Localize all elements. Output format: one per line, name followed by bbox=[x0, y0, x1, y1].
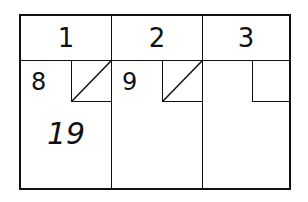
frame-2: 2 9 bbox=[111, 16, 202, 188]
frame-number: 1 bbox=[21, 16, 111, 61]
bowling-scorecard: 1 8 19 2 9 3 bbox=[19, 14, 291, 190]
second-roll-box bbox=[71, 61, 111, 102]
first-roll: 9 bbox=[122, 70, 137, 94]
frame-3: 3 bbox=[202, 16, 289, 188]
first-roll: 8 bbox=[31, 70, 46, 94]
spare-slash-icon bbox=[163, 61, 202, 101]
frame-number: 3 bbox=[203, 16, 289, 61]
frame-total: 19 bbox=[21, 119, 111, 149]
frame-number: 2 bbox=[112, 16, 202, 61]
frame-1: 1 8 19 bbox=[21, 16, 111, 188]
spare-slash-icon bbox=[72, 61, 111, 101]
second-roll-box bbox=[252, 61, 289, 102]
second-roll-box bbox=[162, 61, 202, 102]
